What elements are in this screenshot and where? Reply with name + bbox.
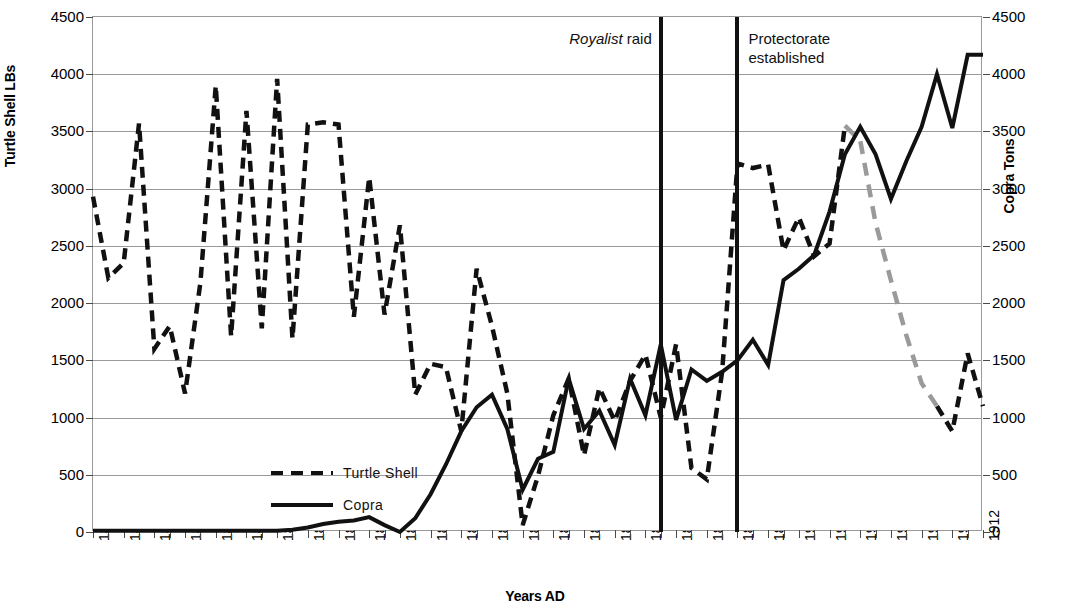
- legend-swatch-dashed-icon: [271, 471, 333, 475]
- x-axis-title: Years AD: [0, 588, 1070, 604]
- legend-label-turtle-shell: Turtle Shell: [343, 465, 418, 481]
- y-tick-label-left: 4000: [24, 66, 84, 81]
- y-tick-label-left: 3000: [24, 181, 84, 196]
- y-tick-label-right: 2000: [992, 295, 1052, 310]
- data-series-layer: [93, 17, 983, 532]
- y-tick-mark-left: [86, 74, 93, 75]
- y-tick-mark-left: [86, 532, 93, 533]
- y-tick-mark-left: [86, 360, 93, 361]
- y-tick-mark-left: [86, 189, 93, 190]
- y-tick-mark-right: [983, 131, 990, 132]
- legend-swatch-solid-icon: [271, 503, 333, 507]
- x-tick-mark: [983, 530, 984, 538]
- y-tick-label-left: 1000: [24, 410, 84, 425]
- y-tick-mark-right: [983, 532, 990, 533]
- y-tick-mark-left: [86, 246, 93, 247]
- legend-label-copra: Copra: [343, 497, 383, 513]
- series-line-turtle-shell-projected: [845, 126, 937, 406]
- y-tick-mark-left: [86, 131, 93, 132]
- y-tick-label-right: 500: [992, 467, 1052, 482]
- y-tick-label-left: 4500: [24, 9, 84, 24]
- y-tick-label-right: 1500: [992, 352, 1052, 367]
- y-tick-label-right: 1000: [992, 410, 1052, 425]
- y-tick-label-left: 500: [24, 467, 84, 482]
- y-tick-label-right: 4000: [992, 66, 1052, 81]
- y-tick-label-left: 2000: [24, 295, 84, 310]
- y-axis-right-title: Copra Tons: [1001, 96, 1017, 256]
- y-tick-mark-right: [983, 360, 990, 361]
- y-tick-label-right: 3500: [992, 123, 1052, 138]
- y-tick-mark-right: [983, 303, 990, 304]
- chart-legend: Turtle Shell Copra: [271, 457, 418, 521]
- y-tick-mark-right: [983, 74, 990, 75]
- y-tick-mark-right: [983, 246, 990, 247]
- y-tick-label-left: 0: [24, 524, 84, 539]
- y-tick-mark-left: [86, 17, 93, 18]
- y-tick-label-right: 4500: [992, 9, 1052, 24]
- chart-figure: Turtle Shell LBs Copra Tons Years AD 005…: [0, 0, 1070, 609]
- y-tick-mark-left: [86, 418, 93, 419]
- event-line-protectorate-established: [735, 17, 739, 532]
- y-axis-left-title: Turtle Shell LBs: [2, 16, 18, 216]
- y-tick-mark-right: [983, 475, 990, 476]
- y-tick-mark-left: [86, 303, 93, 304]
- x-tick-label: 1912: [987, 510, 1001, 541]
- event-label-royalist-raid: Royalist raid: [522, 30, 652, 49]
- legend-item-turtle-shell: Turtle Shell: [271, 457, 418, 489]
- y-tick-mark-left: [86, 475, 93, 476]
- legend-item-copra: Copra: [271, 489, 418, 521]
- plot-area: Royalist raidProtectorate established Tu…: [92, 16, 982, 531]
- y-tick-mark-right: [983, 418, 990, 419]
- y-tick-label-right: 3000: [992, 181, 1052, 196]
- y-tick-label-left: 3500: [24, 123, 84, 138]
- y-tick-mark-right: [983, 189, 990, 190]
- y-tick-mark-right: [983, 17, 990, 18]
- y-tick-label-left: 1500: [24, 352, 84, 367]
- y-tick-label-left: 2500: [24, 238, 84, 253]
- event-label-protectorate-established: Protectorate established: [748, 30, 830, 68]
- event-line-royalist-raid: [659, 17, 663, 532]
- y-tick-label-right: 2500: [992, 238, 1052, 253]
